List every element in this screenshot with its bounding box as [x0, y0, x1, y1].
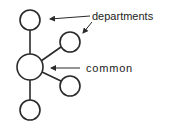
- node-department-top: [20, 10, 40, 30]
- edge-center-upper-right: [41, 47, 61, 61]
- arrow-departments-upper-right: [83, 22, 92, 33]
- nodes: [17, 10, 80, 120]
- node-department-upper-right: [60, 32, 80, 52]
- node-department-lower-right: [60, 76, 80, 96]
- node-common-center: [17, 54, 43, 80]
- hub-diagram: departments common: [0, 0, 169, 130]
- arrow-departments-top: [50, 16, 90, 19]
- node-department-bottom: [20, 100, 40, 120]
- label-common: common: [86, 62, 133, 74]
- label-departments: departments: [92, 10, 154, 22]
- edge-center-lower-right: [42, 72, 61, 81]
